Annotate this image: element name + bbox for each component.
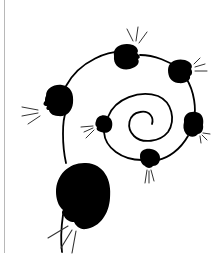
head-bottom-small: [140, 149, 160, 183]
speech-lines-icon: [22, 107, 40, 124]
head-large-bottom: [48, 163, 110, 253]
speech-lines-icon: [200, 133, 210, 143]
head-top: [114, 27, 147, 69]
speech-lines-icon: [194, 58, 207, 71]
speech-lines-icon: [145, 170, 154, 183]
illustration-frame: Spiral of speaking heads: [0, 0, 220, 263]
head-left: [22, 85, 73, 124]
speech-lines-icon: [127, 27, 147, 43]
spiral-heads-illustration: [0, 0, 220, 263]
head-inner-left: [81, 115, 112, 138]
head-upper-right: [168, 58, 207, 83]
speech-lines-icon: [81, 126, 94, 138]
